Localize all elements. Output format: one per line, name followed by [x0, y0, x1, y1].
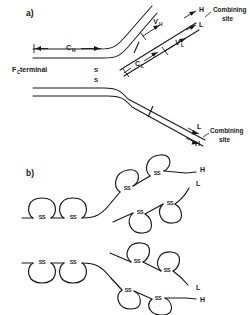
- ch-domain-sublabel: H: [72, 48, 76, 53]
- fc-heavy-chain-upper-inner: [33, 13, 157, 58]
- antibody-figure: a) S S C H: [0, 0, 250, 315]
- lower-light-arm-c-terminus: [173, 271, 188, 285]
- ch-domain-label: C: [66, 44, 71, 51]
- combining-site-upper-lead: [205, 12, 211, 17]
- panel-b-ss-upper-arm-1: SS: [124, 185, 131, 191]
- upper-heavy-chain-label: H: [199, 6, 204, 13]
- figure-canvas: a) S S C H: [0, 0, 250, 315]
- vh-domain-span: [140, 25, 160, 40]
- interchain-disulfide-bar-upper: [134, 42, 139, 53]
- panel-b-ss-upper-light-2: SS: [167, 200, 174, 206]
- panel-b-upper-light-label: L: [196, 180, 201, 187]
- panel-b-ss-upper-fc-1: SS: [39, 214, 46, 220]
- panel-b-upper-heavy-label: H: [200, 166, 205, 173]
- panel-b-ss-lower-fc-2: SS: [70, 259, 77, 265]
- lower-fc-domain-loop-1: [29, 263, 56, 283]
- panel-b-lower-heavy-label: H: [200, 296, 205, 303]
- panel-b-lower-light-label: L: [196, 284, 201, 291]
- lower-hinge-segment: [82, 263, 122, 290]
- light-chain-upper-inner: [124, 30, 199, 76]
- fc-heavy-chain-upper-outer: [33, 6, 152, 49]
- fc-terminal-rest: terminal: [20, 66, 47, 73]
- upper-light-arm-c-terminus: [175, 188, 189, 204]
- upper-heavy-arm-seg-1: [133, 176, 150, 186]
- panel-b: b) H L SS SS SS SS SS SS: [22, 155, 205, 315]
- fc-heavy-chain-lower-inner: [33, 96, 203, 146]
- hinge-disulfide-s1: S: [94, 66, 98, 73]
- vl-domain-sublabel: L: [181, 43, 184, 48]
- panel-b-ss-lower-arm-2: SS: [155, 295, 162, 301]
- ch-domain-span: [81, 46, 101, 51]
- hinge-disulfide-s2: S: [94, 76, 98, 83]
- combining-site-upper-line2: site: [222, 15, 233, 22]
- vh-domain-label: V: [153, 18, 158, 25]
- panel-b-ss-upper-light-1: SS: [137, 209, 144, 215]
- lower-heavy-arm-seg-1: [134, 291, 152, 299]
- panel-b-label: b): [26, 168, 34, 178]
- cl-domain-sublabel: L: [141, 64, 144, 69]
- panel-b-ss-lower-light-2: SS: [164, 267, 171, 273]
- combining-site-upper-line1: Combining: [213, 6, 246, 14]
- upper-hinge-segment: [82, 192, 120, 218]
- panel-b-ss-lower-fc-1: SS: [39, 259, 46, 265]
- upper-heavy-pointer: [184, 11, 196, 18]
- combining-site-lower-lead: [203, 133, 209, 137]
- lower-heavy-chain-label: H: [195, 140, 200, 147]
- fc-terminal-marker: [34, 44, 48, 53]
- panel-a-label: a): [26, 8, 34, 18]
- combining-site-lower-line1: Combining: [210, 127, 243, 135]
- lower-light-chain-label: L: [197, 123, 202, 130]
- combining-site-lower-line2: site: [219, 136, 230, 143]
- cl-domain-label: C: [135, 60, 140, 67]
- vl-domain-label: V: [175, 39, 180, 46]
- panel-b-ss-upper-arm-2: SS: [154, 170, 161, 176]
- lower-heavy-arm-c-terminus: [165, 298, 196, 299]
- upper-light-arm-loop-2: [160, 204, 182, 223]
- vh-domain-sublabel: H: [159, 22, 163, 27]
- upper-light-arm-loop-1: [129, 213, 151, 233]
- lower-fc-domain-loop-2: [60, 263, 87, 283]
- panel-a: a) S S C H: [12, 6, 246, 147]
- panel-b-ss-lower-light-1: SS: [134, 258, 141, 264]
- panel-b-ss-upper-fc-2: SS: [70, 214, 77, 220]
- panel-b-ss-lower-arm-1: SS: [125, 287, 132, 293]
- upper-light-chain-label: L: [199, 21, 204, 28]
- upper-heavy-arm-c-terminus: [164, 171, 196, 173]
